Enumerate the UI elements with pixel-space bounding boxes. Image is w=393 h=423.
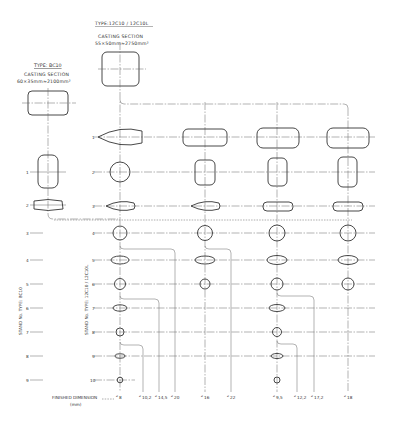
stand-rows xyxy=(94,137,375,380)
svg-text:⌀: ⌀ xyxy=(155,394,157,398)
svg-text:4: 4 xyxy=(26,258,29,263)
type-12c10-title: TYPE:12C10 / 12C10L xyxy=(94,21,149,26)
svg-text:⌀: ⌀ xyxy=(344,394,346,398)
svg-text:2: 2 xyxy=(92,170,95,175)
svg-text:2: 2 xyxy=(26,203,29,208)
casting-section-dims: 55×50mm≈2750mm² xyxy=(95,41,149,46)
roll-pass-diagram: TYPE:12C10 / 12C10L CASTING SECTION 55×5… xyxy=(0,0,393,423)
svg-text:10: 10 xyxy=(90,378,96,383)
type-12c10-header: TYPE:12C10 / 12C10L CASTING SECTION 55×5… xyxy=(94,21,153,46)
svg-text:3: 3 xyxy=(26,231,29,236)
svg-text:9,5: 9,5 xyxy=(276,395,283,400)
svg-text:5: 5 xyxy=(92,258,95,263)
svg-text:14,5: 14,5 xyxy=(158,395,168,400)
svg-text:22: 22 xyxy=(230,395,236,400)
svg-text:7: 7 xyxy=(92,306,95,311)
svg-text:3: 3 xyxy=(92,204,95,209)
type-bc10-title: TYPE: BC10 xyxy=(33,63,62,68)
svg-text:⌀: ⌀ xyxy=(227,394,229,398)
casting-section-dims: 60×35mm≈2100mm² xyxy=(17,79,71,84)
svg-text:⌀: ⌀ xyxy=(273,394,275,398)
bc10-merge-line xyxy=(48,214,118,219)
svg-text:18: 18 xyxy=(347,395,353,400)
c12-axis-label: STAND No. TYPE: 12C10 / 12C10L xyxy=(84,264,89,335)
svg-text:9: 9 xyxy=(92,354,95,359)
svg-text:1: 1 xyxy=(26,170,29,175)
svg-text:10,2: 10,2 xyxy=(142,395,152,400)
svg-text:6: 6 xyxy=(26,306,29,311)
casting-section-label: CASTING SECTION xyxy=(24,72,69,77)
svg-text:⌀: ⌀ xyxy=(116,394,118,398)
svg-text:7: 7 xyxy=(26,330,29,335)
svg-text:12,2: 12,2 xyxy=(297,395,307,400)
type-bc10-header: TYPE: BC10 CASTING SECTION 60×35mm≈2100m… xyxy=(17,63,71,84)
svg-text:8: 8 xyxy=(119,395,122,400)
svg-text:⌀: ⌀ xyxy=(139,394,141,398)
dimension-leaders xyxy=(120,246,314,392)
svg-text:8: 8 xyxy=(92,330,95,335)
svg-text:⌀: ⌀ xyxy=(201,394,203,398)
svg-text:8: 8 xyxy=(26,354,29,359)
svg-text:⌀: ⌀ xyxy=(294,394,296,398)
column-3-passes xyxy=(257,128,299,383)
svg-text:16: 16 xyxy=(204,395,210,400)
svg-text:⌀: ⌀ xyxy=(171,394,173,398)
finished-dimension-row: FINISHED DIMENSION (mm) ⌀ 8 ⌀ 10,2 ⌀ 14,… xyxy=(52,394,353,407)
svg-text:5: 5 xyxy=(26,282,29,287)
casting-section-label: CASTING SECTION xyxy=(98,34,143,39)
svg-text:17,2: 17,2 xyxy=(314,395,324,400)
branch-line xyxy=(120,100,348,108)
svg-text:1: 1 xyxy=(92,135,95,140)
bc10-axis-label: STAND No. TYPE: BC10 xyxy=(18,287,23,335)
bc10-stand-labels: 1 2 3 4 5 6 7 8 9 xyxy=(26,170,66,383)
svg-text:9: 9 xyxy=(26,378,29,383)
svg-text:20: 20 xyxy=(174,395,180,400)
svg-text:4: 4 xyxy=(92,231,95,236)
svg-text:⌀: ⌀ xyxy=(311,394,313,398)
finished-dimension-label: FINISHED DIMENSION xyxy=(52,395,97,400)
finished-dimension-unit: (mm) xyxy=(70,402,82,407)
svg-text:6: 6 xyxy=(92,282,95,287)
